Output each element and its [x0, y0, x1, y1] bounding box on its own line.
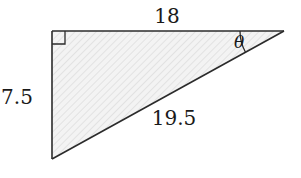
label-hypotenuse: 19.5 [152, 106, 197, 130]
label-angle-theta: θ [234, 32, 244, 52]
label-top-side: 18 [154, 4, 179, 28]
label-left-side: 7.5 [1, 85, 33, 109]
triangle-diagram: 18 7.5 19.5 θ [0, 0, 301, 178]
